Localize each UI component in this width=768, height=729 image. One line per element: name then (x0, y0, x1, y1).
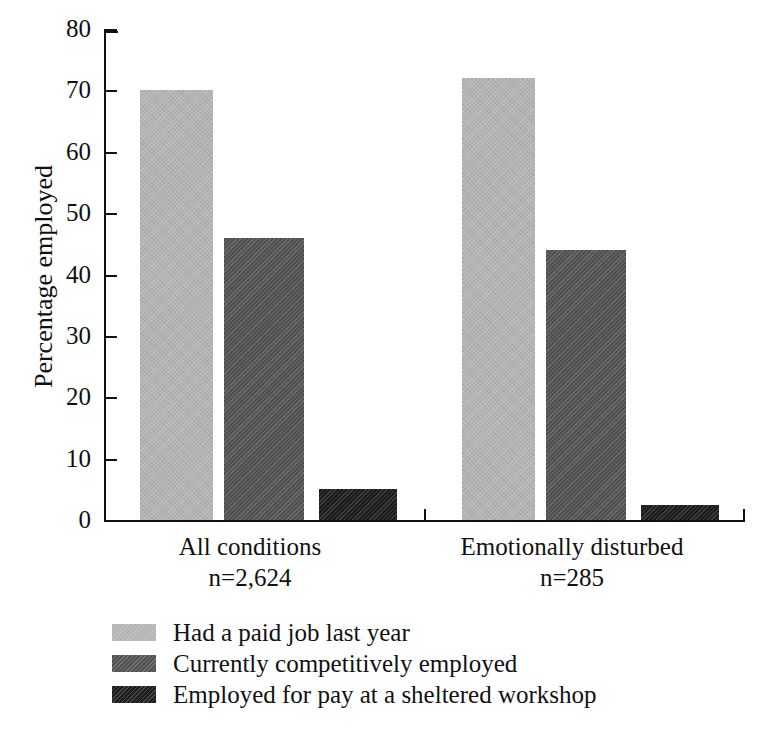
y-axis-tick: 10 (104, 459, 117, 461)
y-axis-tick: 40 (104, 275, 117, 277)
y-axis-tick-label: 10 (66, 446, 91, 471)
legend-item: Had a paid job last year (112, 617, 597, 648)
y-axis-top-cap (104, 31, 118, 33)
x-axis-mid-tick (424, 509, 426, 522)
bar-chart: Percentage employed 01020304050607080 Al… (0, 0, 768, 729)
y-axis-tick-label: 70 (66, 77, 91, 102)
y-axis-tick: 20 (104, 397, 117, 399)
bar (546, 250, 626, 520)
category-name: Emotionally disturbed (372, 531, 768, 562)
y-axis-title: Percentage employed (24, 31, 64, 522)
legend-item: Employed for pay at a sheltered workshop (112, 679, 597, 710)
y-axis-tick: 30 (104, 336, 117, 338)
legend-swatch (112, 624, 156, 641)
chart-legend: Had a paid job last yearCurrently compet… (112, 617, 597, 710)
bar (462, 78, 535, 520)
bar (224, 238, 304, 520)
bar (641, 505, 719, 520)
legend-item: Currently competitively employed (112, 648, 597, 679)
plot-area: 01020304050607080 (104, 31, 745, 522)
category-sample-size: n=285 (372, 562, 768, 593)
y-axis-tick-label: 60 (66, 139, 91, 164)
y-axis-tick-label: 80 (66, 16, 91, 41)
legend-label: Employed for pay at a sheltered workshop (173, 681, 597, 708)
y-axis-tick-label: 0 (79, 507, 92, 532)
bar (319, 489, 397, 520)
y-axis-tick: 50 (104, 213, 117, 215)
legend-label: Had a paid job last year (173, 619, 410, 646)
legend-swatch (112, 686, 156, 703)
legend-label: Currently competitively employed (173, 650, 517, 677)
y-axis-tick-label: 50 (66, 200, 91, 225)
y-axis-line (104, 31, 106, 522)
y-axis-tick: 60 (104, 152, 117, 154)
y-axis-tick: 70 (104, 90, 117, 92)
y-axis-tick: 80 (104, 29, 117, 31)
y-axis-tick-label: 40 (66, 262, 91, 287)
y-axis-tick: 0 (104, 520, 117, 522)
x-axis-right-cap (743, 509, 745, 522)
legend-swatch (112, 655, 156, 672)
x-axis-category-label: Emotionally disturbedn=285 (372, 531, 768, 593)
y-axis-tick-label: 30 (66, 323, 91, 348)
bar (140, 90, 213, 520)
y-axis-tick-label: 20 (66, 384, 91, 409)
